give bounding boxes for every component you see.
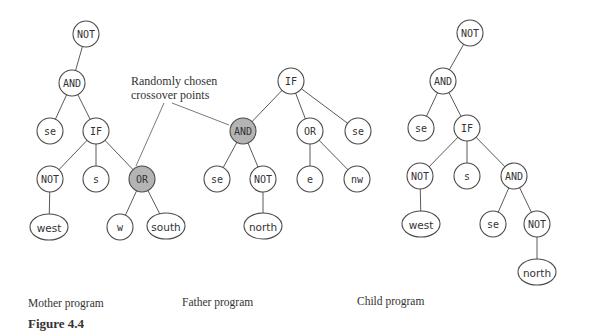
svg-text:nw: nw	[351, 174, 364, 185]
svg-text:west: west	[409, 219, 434, 231]
child-node-se: se	[408, 115, 434, 141]
svg-text:IF: IF	[90, 126, 102, 137]
child-node-s: s	[454, 163, 480, 189]
svg-text:AND: AND	[505, 171, 523, 182]
annotation-line-1: Randomly chosen	[131, 74, 217, 88]
father-node-se: se	[345, 118, 371, 144]
father-node-se: se	[204, 166, 230, 192]
svg-text:se: se	[487, 219, 499, 230]
svg-text:se: se	[352, 126, 364, 137]
svg-text:w: w	[117, 222, 124, 233]
mother-node-w: w	[107, 214, 133, 240]
mother-program-caption: Mother program	[28, 297, 104, 309]
svg-text:AND: AND	[234, 126, 252, 137]
figure-label: Figure 4.4	[28, 316, 84, 332]
father-node-nw: nw	[344, 166, 370, 192]
mother-node-and: AND	[59, 70, 85, 96]
mother-node-se: se	[37, 118, 63, 144]
svg-text:north: north	[249, 221, 277, 233]
father-node-not: NOT	[250, 166, 276, 192]
father-node-or: OR	[297, 118, 323, 144]
svg-text:south: south	[151, 221, 180, 233]
callout-lines	[136, 103, 229, 166]
svg-text:se: se	[415, 123, 427, 134]
svg-text:e: e	[307, 174, 313, 185]
svg-text:OR: OR	[304, 126, 317, 137]
tree-nodes: NOTANDseIFNOTsORwestwsouthIFANDORseseNOT…	[30, 20, 556, 285]
svg-text:AND: AND	[63, 78, 81, 89]
annotation-line-2: crossover points	[131, 88, 217, 102]
svg-text:IF: IF	[461, 123, 473, 134]
svg-text:AND: AND	[434, 76, 452, 87]
mother-node-or: OR	[129, 166, 155, 192]
child-node-if: IF	[454, 115, 480, 141]
callout-line	[136, 103, 164, 166]
child-node-se: se	[480, 211, 506, 237]
child-node-north: north	[518, 259, 556, 285]
callout-line	[172, 103, 229, 125]
child-node-west: west	[402, 211, 440, 237]
child-node-not: NOT	[407, 163, 433, 189]
mother-node-not: NOT	[37, 166, 63, 192]
svg-text:NOT: NOT	[528, 219, 546, 230]
svg-text:se: se	[44, 126, 56, 137]
mother-node-west: west	[30, 214, 68, 240]
svg-text:IF: IF	[285, 76, 297, 87]
svg-text:NOT: NOT	[254, 174, 272, 185]
svg-text:s: s	[464, 171, 470, 182]
child-node-not: NOT	[457, 20, 483, 46]
mother-node-not: NOT	[73, 21, 99, 47]
child-node-and: AND	[430, 68, 456, 94]
father-node-e: e	[297, 166, 323, 192]
svg-text:s: s	[93, 174, 99, 185]
crossover-diagram: NOTANDseIFNOTsORwestwsouthIFANDORseseNOT…	[0, 0, 589, 335]
child-program-caption: Child program	[357, 295, 424, 307]
svg-text:NOT: NOT	[41, 174, 59, 185]
svg-text:OR: OR	[136, 174, 149, 185]
svg-text:north: north	[523, 267, 551, 279]
father-node-and: AND	[230, 118, 256, 144]
svg-text:NOT: NOT	[77, 29, 95, 40]
father-node-if: IF	[278, 68, 304, 94]
crossover-annotation: Randomly chosen crossover points	[131, 74, 217, 102]
svg-text:west: west	[37, 222, 62, 234]
mother-node-s: s	[83, 166, 109, 192]
child-node-not: NOT	[524, 211, 550, 237]
mother-node-south: south	[147, 213, 185, 239]
father-program-caption: Father program	[182, 296, 253, 308]
svg-text:se: se	[211, 174, 223, 185]
svg-text:NOT: NOT	[461, 28, 479, 39]
child-node-and: AND	[501, 163, 527, 189]
father-node-north: north	[244, 213, 282, 239]
mother-node-if: IF	[83, 118, 109, 144]
svg-text:NOT: NOT	[411, 171, 429, 182]
